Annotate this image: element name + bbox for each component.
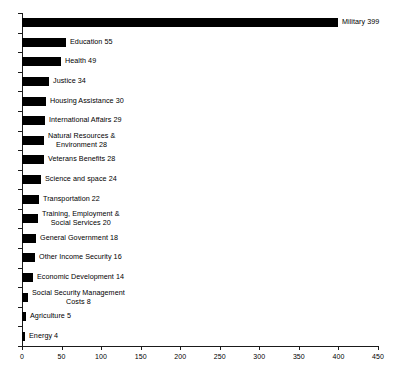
bar	[22, 18, 338, 27]
bar-value-label: Health 49	[65, 57, 96, 65]
x-tick-mark	[101, 346, 102, 350]
y-tick-mark	[18, 91, 22, 92]
x-tick-mark	[22, 346, 23, 350]
bar-row: Housing Assistance 30	[0, 97, 394, 106]
y-tick-mark	[18, 111, 22, 112]
bar-row: Education 55	[0, 38, 394, 47]
bar-value-label: International Affairs 29	[49, 116, 122, 124]
x-tick-label: 200	[165, 352, 195, 361]
bar-row: Social Security ManagementCosts 8	[0, 293, 394, 302]
x-tick-mark	[338, 346, 339, 350]
bar-value-label: Energy 4	[29, 332, 58, 340]
bar	[22, 195, 39, 204]
bar	[22, 234, 36, 243]
bar	[22, 175, 41, 184]
bar-value-label-line: Social Services 20	[42, 219, 120, 227]
bar-value-label-line: Costs 8	[32, 298, 125, 306]
bar	[22, 253, 35, 262]
bar	[22, 214, 38, 223]
x-tick-mark	[220, 346, 221, 350]
y-tick-mark	[18, 150, 22, 151]
x-tick-mark	[62, 346, 63, 350]
bar-value-label: Housing Assistance 30	[50, 97, 124, 105]
y-tick-mark	[18, 13, 22, 14]
x-axis-line	[22, 346, 379, 347]
y-tick-mark	[18, 307, 22, 308]
x-tick-label: 250	[205, 352, 235, 361]
bar-row: International Affairs 29	[0, 116, 394, 125]
bar-row: Agriculture 5	[0, 312, 394, 321]
bar-row: Veterans Benefits 28	[0, 155, 394, 164]
bar	[22, 312, 26, 321]
y-tick-mark	[18, 326, 22, 327]
y-tick-mark	[18, 228, 22, 229]
x-tick-mark	[299, 346, 300, 350]
bar-row: Energy 4	[0, 332, 394, 341]
bar-value-label: General Government 18	[40, 234, 118, 242]
x-tick-label: 100	[86, 352, 116, 361]
bar-value-label: Justice 34	[53, 77, 86, 85]
x-tick-label: 450	[363, 352, 393, 361]
bar-chart: 050100150200250300350400450 Military 399…	[0, 0, 394, 373]
y-tick-mark	[18, 287, 22, 288]
x-tick-label: 50	[47, 352, 77, 361]
bar	[22, 116, 45, 125]
bar	[22, 57, 61, 66]
x-tick-label: 400	[323, 352, 353, 361]
bar-value-label: Veterans Benefits 28	[48, 155, 115, 163]
bar	[22, 155, 44, 164]
bar-value-label: Education 55	[70, 38, 113, 46]
bar-row: Economic Development 14	[0, 273, 394, 282]
y-tick-mark	[18, 248, 22, 249]
bar-value-label: Natural Resources &Environment 28	[48, 132, 115, 149]
x-tick-mark	[378, 346, 379, 350]
x-tick-mark	[259, 346, 260, 350]
bar	[22, 136, 44, 145]
bar-row: Science and space 24	[0, 175, 394, 184]
bar-value-label: Transportation 22	[43, 195, 100, 203]
bar-row: Health 49	[0, 57, 394, 66]
bar-row: Other Income Security 16	[0, 253, 394, 262]
x-tick-label: 350	[284, 352, 314, 361]
bar-value-label: Science and space 24	[45, 175, 117, 183]
x-tick-label: 300	[244, 352, 274, 361]
y-tick-mark	[18, 209, 22, 210]
bar	[22, 332, 25, 341]
bar-value-label: Agriculture 5	[30, 312, 71, 320]
y-tick-mark	[18, 170, 22, 171]
bar-value-label: Economic Development 14	[37, 273, 124, 281]
bar-row: Military 399	[0, 18, 394, 27]
bar-value-label: Social Security ManagementCosts 8	[32, 289, 125, 306]
bar-value-label-line: Environment 28	[48, 141, 115, 149]
bar-row: Natural Resources &Environment 28	[0, 136, 394, 145]
y-tick-mark	[18, 52, 22, 53]
bar	[22, 97, 46, 106]
y-tick-mark	[18, 72, 22, 73]
bar-row: Transportation 22	[0, 195, 394, 204]
bar	[22, 293, 28, 302]
bar-row: Justice 34	[0, 77, 394, 86]
bar-value-label: Training, Employment &Social Services 20	[42, 210, 120, 227]
y-tick-mark	[18, 268, 22, 269]
y-tick-mark	[18, 131, 22, 132]
bar-row: General Government 18	[0, 234, 394, 243]
x-tick-mark	[180, 346, 181, 350]
x-tick-mark	[141, 346, 142, 350]
bar	[22, 273, 33, 282]
x-tick-label: 0	[7, 352, 37, 361]
y-tick-mark	[18, 189, 22, 190]
plot-area: 050100150200250300350400450 Military 399…	[0, 0, 394, 373]
bar-value-label: Other Income Security 16	[39, 253, 122, 261]
bar	[22, 77, 49, 86]
bar	[22, 38, 66, 47]
bar-row: Training, Employment &Social Services 20	[0, 214, 394, 223]
y-tick-mark	[18, 33, 22, 34]
x-tick-label: 150	[126, 352, 156, 361]
bar-value-label: Military 399	[342, 18, 379, 26]
